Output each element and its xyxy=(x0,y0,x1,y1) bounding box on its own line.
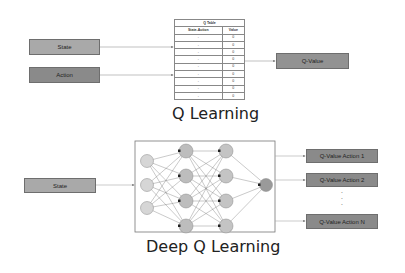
cell: 0 xyxy=(222,49,244,56)
hidden-node xyxy=(219,194,233,208)
cell: - xyxy=(175,85,223,92)
table-row: -0 xyxy=(175,49,245,56)
hidden-node xyxy=(179,169,193,183)
input-node xyxy=(141,155,154,168)
state-label: State xyxy=(57,44,71,50)
cell: 0 xyxy=(222,34,244,41)
q-value-box: Q-Value xyxy=(276,53,349,69)
input-node xyxy=(141,179,154,192)
vertical-ellipsis: ··· xyxy=(340,190,344,208)
q-value-label: Q-Value xyxy=(302,58,324,64)
q-value-action-n-label: Q-Value Action N xyxy=(319,219,365,225)
hidden-node xyxy=(219,219,233,233)
table-row: -0 xyxy=(175,78,245,85)
table-row: -0 xyxy=(175,41,245,48)
table-row: -0 xyxy=(175,56,245,63)
q-value-action-1-label: Q-Value Action 1 xyxy=(320,153,365,159)
cell: - xyxy=(175,41,223,48)
cell: - xyxy=(175,71,223,78)
table-row: -0 xyxy=(175,71,245,78)
cell: - xyxy=(175,34,223,41)
hidden-node xyxy=(179,144,193,158)
q-value-action-2-box: Q-Value Action 2 xyxy=(306,173,378,187)
cell: 0 xyxy=(222,41,244,48)
cell: 0 xyxy=(222,85,244,92)
table-row: -0 xyxy=(175,85,245,92)
table-row: -0 xyxy=(175,92,245,99)
hidden-node xyxy=(219,169,233,183)
output-node xyxy=(260,179,273,192)
cell: 0 xyxy=(222,92,244,99)
hidden-node xyxy=(179,219,193,233)
cell: 0 xyxy=(222,63,244,70)
table-row: -0 xyxy=(175,63,245,70)
q-value-action-2-label: Q-Value Action 2 xyxy=(320,177,365,183)
q-table-header-state-action: State-Action xyxy=(175,27,223,34)
cell: - xyxy=(175,56,223,63)
table-row: -0 xyxy=(175,34,245,41)
q-table-title: Q Table xyxy=(175,20,245,27)
q-learning-title: Q Learning xyxy=(172,104,259,123)
cell: - xyxy=(175,63,223,70)
dqn-state-box: State xyxy=(24,178,96,193)
q-table: Q Table State-Action Value -0 -0 -0 -0 -… xyxy=(174,19,245,100)
state-box: State xyxy=(29,39,100,55)
cell: - xyxy=(175,49,223,56)
action-box: Action xyxy=(29,67,100,83)
action-label: Action xyxy=(56,72,73,78)
q-value-action-1-box: Q-Value Action 1 xyxy=(306,149,378,163)
cell: - xyxy=(175,78,223,85)
q-table-header-value: Value xyxy=(222,27,244,34)
input-node xyxy=(141,202,154,215)
cell: - xyxy=(175,92,223,99)
cell: 0 xyxy=(222,78,244,85)
q-value-action-n-box: Q-Value Action N xyxy=(306,214,378,229)
dqn-state-label: State xyxy=(53,183,67,189)
hidden-node xyxy=(179,194,193,208)
deep-q-learning-title: Deep Q Learning xyxy=(146,237,280,256)
hidden-node xyxy=(219,144,233,158)
cell: 0 xyxy=(222,71,244,78)
cell: 0 xyxy=(222,56,244,63)
